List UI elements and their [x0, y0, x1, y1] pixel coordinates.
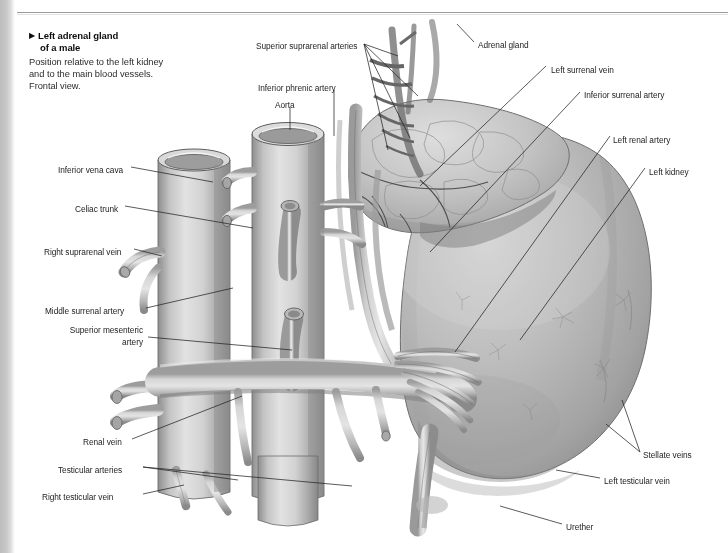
caption-title-line2: of a male: [29, 42, 164, 54]
label-superior-suprarenal-arteries: Superior suprarenal arteries: [256, 41, 357, 51]
label-testicular-arteries: Testicular arteries: [58, 465, 122, 475]
label-left-testicular-vein: Left testicular vein: [604, 476, 670, 486]
label-adrenal-gland: Adrenal gland: [478, 40, 529, 50]
label-urether: Urether: [566, 522, 593, 532]
label-aorta: Aorta: [275, 100, 295, 110]
label-left-surrenal-vein: Left surrenal vein: [551, 65, 614, 75]
label-inferior-surrenal-artery: Inferior surrenal artery: [584, 90, 664, 100]
label-middle-surrenal-artery: Middle surrenal artery: [45, 306, 124, 316]
label-renal-vein: Renal vein: [83, 437, 122, 447]
figure-caption: ▶Left adrenal gland of a male Position r…: [29, 30, 164, 92]
caption-body: Position relative to the left kidney and…: [29, 56, 164, 93]
label-right-suprarenal-vein: Right suprarenal vein: [44, 247, 121, 257]
label-inferior-vena-cava: Inferior vena cava: [58, 165, 123, 175]
label-left-kidney: Left kidney: [649, 167, 689, 177]
caption-title: ▶Left adrenal gland of a male: [29, 30, 164, 55]
label-stellate-veins: Stellate veins: [643, 450, 692, 460]
label-celiac-trunk: Celiac trunk: [75, 204, 118, 214]
label-left-renal-artery: Left renal artery: [613, 135, 670, 145]
triangle-marker-icon: ▶: [29, 31, 35, 40]
label-inferior-phrenic-artery: Inferior phrenic artery: [258, 83, 336, 93]
label-right-testicular-vein: Right testicular vein: [42, 492, 113, 502]
caption-title-line1: Left adrenal gland: [38, 30, 118, 41]
figure-page: ▶Left adrenal gland of a male Position r…: [0, 0, 728, 553]
label-superior-mesenteric-artery: Superior mesenteric artery: [51, 325, 143, 348]
